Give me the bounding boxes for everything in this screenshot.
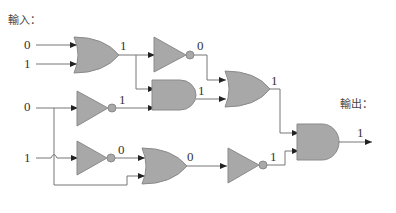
or-gate-3 bbox=[142, 148, 187, 184]
final-output-label: 1 bbox=[357, 125, 364, 140]
or1-output-label: 1 bbox=[120, 38, 127, 53]
not-gate-4 bbox=[228, 148, 259, 183]
input-b-label: 1 bbox=[24, 56, 31, 71]
and-gate-1 bbox=[152, 80, 196, 110]
and-gate-final bbox=[297, 124, 339, 160]
logic-circuit-diagram: 輸入： 輸出： 0 1 0 1 1 0 1 1 1 0 0 1 bbox=[0, 0, 396, 213]
and1-output-label: 1 bbox=[198, 83, 205, 98]
not3-output-label: 0 bbox=[118, 142, 125, 157]
input-title: 輸入： bbox=[8, 13, 41, 27]
wire-not1-or2 bbox=[194, 55, 226, 80]
wire-d bbox=[36, 155, 78, 159]
or-gate-2 bbox=[225, 71, 270, 107]
or3-output-label: 0 bbox=[187, 149, 194, 164]
input-d-label: 1 bbox=[24, 150, 31, 165]
or-gate-1 bbox=[74, 37, 119, 73]
not2-output-label: 1 bbox=[119, 92, 126, 107]
not-gate-3 bbox=[77, 141, 107, 175]
wire-or2-and-final bbox=[270, 89, 299, 133]
not1-bubble bbox=[186, 51, 194, 59]
not4-output-label: 1 bbox=[270, 149, 277, 164]
or2-output-label: 1 bbox=[271, 73, 278, 88]
not-gate-1 bbox=[154, 37, 186, 72]
not-gate-2 bbox=[77, 91, 108, 126]
wire-c-or3 bbox=[54, 108, 145, 185]
not3-bubble bbox=[107, 154, 115, 162]
input-c-label: 0 bbox=[24, 99, 31, 114]
not2-bubble bbox=[108, 104, 116, 112]
output-title: 輸出： bbox=[340, 97, 373, 111]
not4-bubble bbox=[259, 161, 267, 169]
input-a-label: 0 bbox=[24, 37, 31, 52]
not1-output-label: 0 bbox=[197, 38, 204, 53]
